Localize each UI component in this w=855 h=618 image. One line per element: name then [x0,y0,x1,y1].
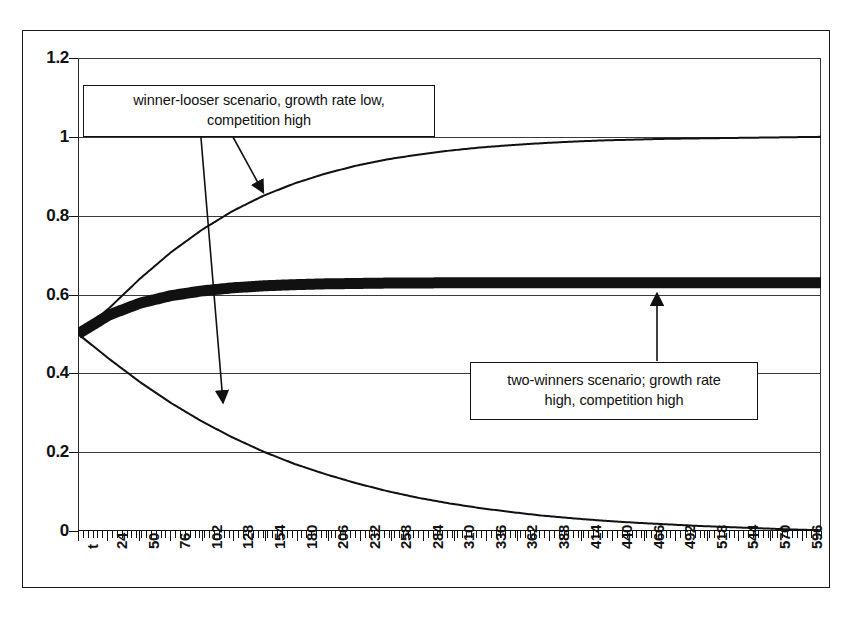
y-tick-mark [69,216,78,217]
x-minor-tick [394,531,395,538]
x-major-tick [139,531,140,541]
x-major-tick [802,531,803,541]
x-minor-tick [229,531,230,538]
x-minor-tick [199,531,200,538]
x-major-tick [675,531,676,541]
x-minor-tick [670,531,671,538]
y-tick-mark [69,531,78,532]
x-minor-tick [131,531,132,538]
data-series-line [78,137,821,334]
y-tick-label: 0 [60,521,69,541]
x-major-tick [644,531,645,541]
x-minor-tick [195,531,196,538]
x-minor-tick [258,531,259,538]
x-major-tick [360,531,361,541]
x-minor-tick [389,531,390,538]
x-major-tick [107,531,108,541]
x-minor-tick [83,531,84,538]
x-major-tick [517,531,518,541]
x-tick-label: t [84,544,101,549]
x-minor-tick [88,531,89,538]
x-minor-tick [510,531,511,538]
y-tick-mark [69,452,78,453]
x-minor-tick [641,531,642,538]
annotation-line-1: two-winners scenario; growth rate [478,371,750,391]
y-tick-mark [69,295,78,296]
y-tick-label: 0.4 [46,363,69,383]
x-minor-tick [583,531,584,538]
x-major-tick [486,531,487,541]
y-tick-mark [69,58,78,59]
y-tick-label: 0.2 [46,442,69,462]
x-major-tick [612,531,613,541]
x-major-tick [328,531,329,541]
x-minor-tick [544,531,545,538]
x-minor-tick [267,531,268,538]
x-minor-tick [768,531,769,538]
y-tick-label: 0.8 [46,206,69,226]
x-tick-label: 76 [176,533,193,549]
x-major-tick [770,531,771,541]
annotation-line-2: competition high [91,111,427,131]
x-minor-tick [165,531,166,538]
x-minor-tick [700,531,701,538]
annotation-line-2: high, competition high [478,391,750,411]
x-minor-tick [763,531,764,538]
x-major-tick [549,531,550,541]
x-major-tick [233,531,234,541]
y-tick-mark [69,137,78,138]
x-major-tick [391,531,392,541]
x-minor-tick [97,531,98,538]
x-minor-tick [646,531,647,538]
x-major-tick [423,531,424,541]
x-major-tick [297,531,298,541]
x-minor-tick [704,531,705,538]
x-minor-tick [772,531,773,538]
x-minor-tick [321,531,322,538]
annotation-two-winners: two-winners scenario; growth rate high, … [470,362,758,420]
x-minor-tick [204,531,205,538]
chart-figure: 00.20.40.60.811.2 t245076102128154180206… [0,0,855,618]
x-minor-tick [578,531,579,538]
x-minor-tick [102,531,103,538]
x-minor-tick [263,531,264,538]
x-minor-tick [326,531,327,538]
x-major-tick [707,531,708,541]
x-minor-tick [734,531,735,538]
x-minor-tick [457,531,458,538]
x-minor-tick [136,531,137,538]
x-major-tick [265,531,266,541]
x-minor-tick [573,531,574,538]
y-tick-mark [69,373,78,374]
x-major-tick [581,531,582,541]
x-tick-label: 50 [145,533,162,549]
x-major-tick [202,531,203,541]
x-major-tick [454,531,455,541]
y-tick-label: 1 [60,127,69,147]
annotation-line-1: winner-looser scenario, growth rate low, [91,91,427,111]
x-minor-tick [141,531,142,538]
x-minor-tick [331,531,332,538]
y-tick-label: 1.2 [46,48,69,68]
x-minor-tick [607,531,608,538]
x-tick-label: 24 [113,533,130,549]
x-minor-tick [797,531,798,538]
x-minor-tick [636,531,637,538]
data-series-line [78,283,821,334]
y-tick-label: 0.6 [46,285,69,305]
x-major-tick [170,531,171,541]
x-minor-tick [93,531,94,538]
annotation-winner-looser: winner-looser scenario, growth rate low,… [83,85,435,137]
x-minor-tick [292,531,293,538]
x-minor-tick [355,531,356,538]
x-minor-tick [709,531,710,538]
x-minor-tick [515,531,516,538]
x-major-tick [78,531,79,541]
x-minor-tick [452,531,453,538]
x-minor-tick [384,531,385,538]
x-minor-tick [481,531,482,538]
x-minor-tick [418,531,419,538]
x-minor-tick [520,531,521,538]
x-minor-tick [447,531,448,538]
x-major-tick [738,531,739,541]
